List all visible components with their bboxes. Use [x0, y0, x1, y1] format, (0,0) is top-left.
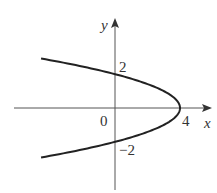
x-axis-label: x [204, 116, 211, 131]
y-axis-label: y [101, 18, 108, 33]
y-tick-2-label: 2 [119, 60, 127, 75]
parabola-plot [0, 0, 217, 193]
x-tick-4-label: 4 [182, 114, 190, 129]
origin-label: 0 [100, 114, 108, 129]
y-tick-neg2-label: −2 [119, 143, 135, 158]
